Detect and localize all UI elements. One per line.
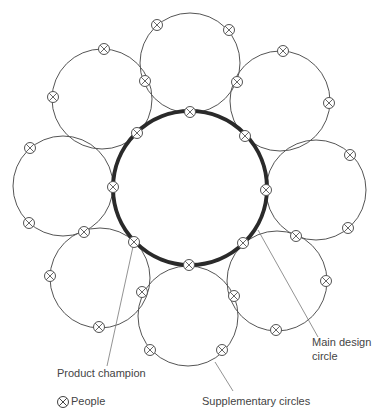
person-icon — [56, 395, 70, 409]
person-icon — [238, 238, 249, 249]
product-champion-label: Product champion — [57, 367, 146, 380]
person-icon — [79, 227, 90, 238]
person-icon — [99, 44, 110, 55]
person-icon — [108, 182, 119, 193]
person-icon — [321, 276, 332, 287]
supplementary-circles-label: Supplementary circles — [202, 395, 310, 408]
person-icon — [217, 345, 228, 356]
person-icon — [152, 20, 163, 31]
supplementary-circles-leader — [215, 362, 233, 391]
person-icon — [232, 77, 243, 88]
person-icon — [129, 237, 140, 248]
legend: People — [56, 395, 136, 411]
person-icon — [132, 128, 143, 139]
person-icon — [24, 218, 35, 229]
person-icon — [45, 271, 56, 282]
main-design-circle-label-line1: Main design — [312, 336, 371, 349]
person-icon — [229, 291, 240, 302]
person-icon — [291, 231, 302, 242]
person-icon — [25, 143, 36, 154]
person-icon — [261, 185, 272, 196]
person-icon — [271, 325, 282, 336]
person-icon — [145, 345, 156, 356]
person-icon — [224, 25, 235, 36]
legend-people-label: People — [71, 395, 105, 408]
person-icon — [185, 107, 196, 118]
main-design-circle-leader — [258, 230, 318, 337]
person-icon — [345, 150, 356, 161]
person-icon — [48, 92, 59, 103]
person-icon — [324, 98, 335, 109]
person-icon — [94, 322, 105, 333]
person-icon — [184, 260, 195, 271]
person-icon — [278, 46, 289, 57]
person-icon — [343, 223, 354, 234]
person-icon — [140, 76, 151, 87]
main-design-circle-label-line2: circle — [312, 350, 338, 363]
product-champion-leader — [107, 242, 134, 366]
person-icon — [137, 287, 148, 298]
person-icon — [240, 131, 251, 142]
